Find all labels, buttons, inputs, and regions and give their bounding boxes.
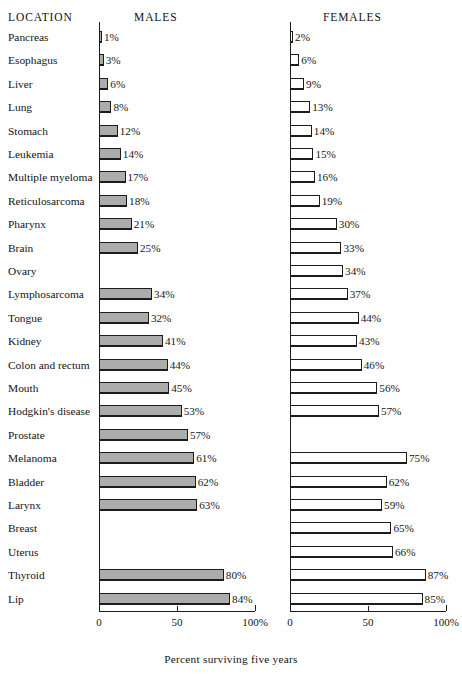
- x-axis-tick-females: [290, 605, 291, 611]
- bar-value-female: 66%: [395, 546, 416, 558]
- bar-male: [99, 429, 188, 441]
- row-label-esophagus: Esophagus: [8, 54, 57, 66]
- bar-male: [99, 78, 108, 90]
- bar-value-male: 12%: [120, 125, 141, 137]
- bar-female: [290, 405, 379, 417]
- chart-row: Colon and rectum44%46%: [0, 353, 462, 377]
- x-axis-tick-males: [255, 605, 256, 611]
- bar-male: [99, 125, 118, 137]
- chart-row: Esophagus3%6%: [0, 48, 462, 72]
- bar-value-male: 8%: [113, 101, 128, 113]
- bar-male: [99, 593, 230, 605]
- x-axis-tick-label-males: 0: [96, 616, 102, 628]
- bar-male: [99, 195, 127, 207]
- bar-value-female: 14%: [314, 125, 335, 137]
- bar-male: [99, 288, 152, 300]
- bar-value-male: 57%: [190, 429, 211, 441]
- bar-female: [290, 452, 407, 464]
- bar-value-male: 84%: [232, 593, 253, 605]
- chart-row: Pancreas1%2%: [0, 25, 462, 49]
- bar-value-female: 2%: [295, 31, 310, 43]
- bar-value-female: 37%: [350, 288, 371, 300]
- chart-row: Stomach12%14%: [0, 119, 462, 143]
- bar-female: [290, 569, 426, 581]
- bar-value-female: 33%: [343, 242, 364, 254]
- bar-female: [290, 546, 393, 558]
- chart-row: Lip84%85%: [0, 587, 462, 611]
- row-label-thyroid: Thyroid: [8, 569, 45, 581]
- chart-rows: Pancreas1%2%Esophagus3%6%Liver6%9%Lung8%…: [0, 0, 462, 674]
- bar-value-male: 17%: [128, 171, 149, 183]
- chart-row: Pharynx21%30%: [0, 212, 462, 236]
- bar-value-female: 34%: [345, 265, 366, 277]
- row-label-pharynx: Pharynx: [8, 218, 46, 230]
- chart-row: Leukemia14%15%: [0, 142, 462, 166]
- x-axis-tick-label-females: 0: [287, 616, 293, 628]
- bar-female: [290, 54, 299, 66]
- chart-row: Kidney41%43%: [0, 329, 462, 353]
- bar-male: [99, 405, 182, 417]
- bar-female: [290, 265, 343, 277]
- bar-value-male: 61%: [196, 452, 217, 464]
- row-label-ovary: Ovary: [8, 265, 36, 277]
- bar-value-female: 59%: [384, 499, 405, 511]
- bar-female: [290, 125, 312, 137]
- bar-female: [290, 78, 304, 90]
- bar-female: [290, 522, 391, 534]
- bar-value-female: 6%: [301, 54, 316, 66]
- bar-value-male: 3%: [106, 54, 121, 66]
- x-axis-tick-label-males: 50: [172, 616, 183, 628]
- chart-row: Hodgkin's disease53%57%: [0, 399, 462, 423]
- bar-value-female: 9%: [306, 78, 321, 90]
- x-axis-tick-label-females: 100%: [433, 616, 459, 628]
- row-label-kidney: Kidney: [8, 335, 42, 347]
- bar-male: [99, 101, 111, 113]
- bar-value-male: 14%: [123, 148, 144, 160]
- bar-female: [290, 101, 310, 113]
- bar-value-male: 34%: [154, 288, 175, 300]
- row-label-hodgkin-s-disease: Hodgkin's disease: [8, 405, 90, 417]
- bar-male: [99, 452, 194, 464]
- row-label-colon-and-rectum: Colon and rectum: [8, 359, 90, 371]
- chart-row: Lymphosarcoma34%37%: [0, 282, 462, 306]
- bar-value-female: 75%: [409, 452, 430, 464]
- bar-female: [290, 359, 362, 371]
- x-axis-tick-label-males: 100%: [242, 616, 268, 628]
- chart-row: Lung8%13%: [0, 95, 462, 119]
- x-axis-tick-females: [446, 605, 447, 611]
- bar-male: [99, 499, 197, 511]
- bar-value-male: 21%: [134, 218, 155, 230]
- y-axis-line-females: [290, 22, 291, 611]
- row-label-lip: Lip: [8, 593, 24, 605]
- bar-value-female: 46%: [364, 359, 385, 371]
- bar-male: [99, 242, 138, 254]
- bar-value-male: 25%: [140, 242, 161, 254]
- bar-female: [290, 312, 359, 324]
- bar-value-female: 30%: [339, 218, 360, 230]
- bar-male: [99, 218, 132, 230]
- bar-value-male: 53%: [184, 405, 205, 417]
- bar-value-female: 56%: [379, 382, 400, 394]
- bar-male: [99, 569, 224, 581]
- bar-value-female: 57%: [381, 405, 402, 417]
- row-label-uterus: Uterus: [8, 546, 38, 558]
- row-label-breast: Breast: [8, 522, 37, 534]
- row-label-liver: Liver: [8, 78, 33, 90]
- bar-value-female: 44%: [361, 312, 382, 324]
- chart-row: Uterus66%: [0, 540, 462, 564]
- bar-male: [99, 335, 163, 347]
- bar-value-female: 62%: [389, 476, 410, 488]
- bar-male: [99, 382, 169, 394]
- bar-value-female: 15%: [315, 148, 336, 160]
- chart-row: Ovary34%: [0, 259, 462, 283]
- chart-row: Mouth45%56%: [0, 376, 462, 400]
- chart-row: Reticulosarcoma18%19%: [0, 189, 462, 213]
- bar-value-male: 62%: [198, 476, 219, 488]
- bar-value-male: 6%: [110, 78, 125, 90]
- bar-value-female: 65%: [393, 522, 414, 534]
- bar-female: [290, 148, 313, 160]
- chart-row: Larynx63%59%: [0, 493, 462, 517]
- bar-value-male: 63%: [199, 499, 220, 511]
- bar-female: [290, 218, 337, 230]
- bar-value-male: 41%: [165, 335, 186, 347]
